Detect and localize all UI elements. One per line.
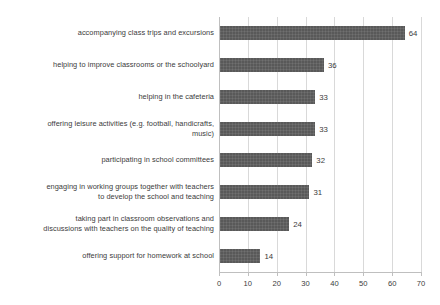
category-label-column: accompanying class trips and excursionsh… — [0, 0, 218, 305]
x-axis-tick-0 — [219, 272, 220, 276]
gridline-60 — [392, 17, 393, 272]
bar-chart: accompanying class trips and excursionsh… — [0, 0, 440, 305]
x-axis-tick-10 — [248, 272, 249, 276]
bar-value-label: 24 — [293, 220, 302, 229]
x-axis-tick-label-50: 50 — [359, 279, 367, 288]
gridline-30 — [306, 17, 307, 272]
category-label: helping in the cafeteria — [138, 92, 218, 102]
x-axis-tick-40 — [334, 272, 335, 276]
bar[interactable] — [220, 217, 289, 231]
category-label: engaging in working groups together with… — [46, 182, 218, 202]
x-axis-tick-label-10: 10 — [244, 279, 252, 288]
x-axis-tick-label-70: 70 — [417, 279, 425, 288]
bar[interactable] — [220, 249, 260, 263]
gridline-20 — [277, 17, 278, 272]
gridline-50 — [363, 17, 364, 272]
bar[interactable] — [220, 58, 324, 72]
x-axis-tick-label-0: 0 — [217, 279, 221, 288]
category-label: offering leisure activities (e.g. footba… — [47, 119, 218, 139]
bar[interactable] — [220, 26, 405, 40]
x-axis-tick-60 — [392, 272, 393, 276]
bar-value-label: 31 — [313, 188, 322, 197]
gridline-70 — [421, 17, 422, 272]
x-axis-tick-20 — [277, 272, 278, 276]
gridline-40 — [334, 17, 335, 272]
bar-value-label: 33 — [319, 92, 328, 101]
x-axis-tick-50 — [363, 272, 364, 276]
x-axis-tick-70 — [421, 272, 422, 276]
bar-value-label: 64 — [409, 28, 418, 37]
category-label: helping to improve classrooms or the sch… — [53, 60, 218, 70]
category-label: taking part in classroom observations an… — [43, 214, 218, 234]
plot-area: 6436333332312414 — [219, 17, 421, 272]
bar[interactable] — [220, 153, 312, 167]
x-axis-tick-label-30: 30 — [301, 279, 309, 288]
gridline-10 — [248, 17, 249, 272]
bar-value-label: 33 — [319, 124, 328, 133]
x-axis-tick-label-40: 40 — [330, 279, 338, 288]
category-label: participating in school committees — [101, 155, 218, 165]
bar[interactable] — [220, 90, 315, 104]
category-label: accompanying class trips and excursions — [78, 28, 218, 38]
category-label: offering support for homework at school — [82, 251, 218, 261]
x-axis-tick-30 — [306, 272, 307, 276]
x-axis-tick-label-60: 60 — [388, 279, 396, 288]
gridline-0 — [219, 17, 220, 272]
bar-value-label: 14 — [264, 252, 273, 261]
x-axis-tick-label-20: 20 — [272, 279, 280, 288]
bar[interactable] — [220, 185, 309, 199]
bar-value-label: 36 — [328, 60, 337, 69]
bar-value-label: 32 — [316, 156, 325, 165]
bar[interactable] — [220, 122, 315, 136]
